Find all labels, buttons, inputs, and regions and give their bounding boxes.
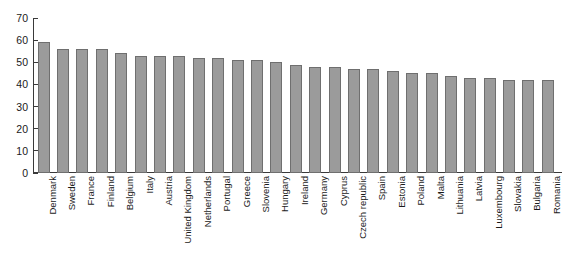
x-label-slot: Finland [92,176,111,260]
plot-area [34,18,562,173]
x-label-slot: Latvia [461,176,480,260]
bar[interactable] [290,65,302,174]
bar-slot [53,18,72,173]
bar[interactable] [426,73,438,173]
bar[interactable] [251,60,263,173]
bar[interactable] [212,58,224,173]
bar-slot [538,18,557,173]
bar-slot [247,18,266,173]
bar[interactable] [464,78,476,173]
x-label-slot: Czech republic [344,176,363,260]
bar-slot [150,18,169,173]
bar[interactable] [309,67,321,173]
x-label-slot: Italy [131,176,150,260]
y-axis-tick-label: 10 [16,145,28,157]
bar-slot [519,18,538,173]
y-axis-tick-label: 40 [16,78,28,90]
bar[interactable] [57,49,69,173]
x-axis-tick-labels: DenmarkSwedenFranceFinlandBelgiumItalyAu… [34,176,562,260]
bar-slot [441,18,460,173]
y-axis-tick-label: 0 [22,167,28,179]
x-label-slot: United Kingdom [170,176,189,260]
bar-slot [92,18,111,173]
x-axis-tick-label: Romania [552,176,562,214]
bar[interactable] [522,80,534,173]
bar-slot [286,18,305,173]
bar[interactable] [329,67,341,173]
bar[interactable] [503,80,515,173]
x-label-slot: Malta [422,176,441,260]
bar-slot [364,18,383,173]
bar-slot [131,18,150,173]
x-label-slot: Greece [228,176,247,260]
x-label-slot: France [73,176,92,260]
x-label-slot: Belgium [112,176,131,260]
bar[interactable] [270,62,282,173]
x-label-slot: Lithuania [441,176,460,260]
bar-slot [34,18,53,173]
bar-slot [209,18,228,173]
bar-slot [170,18,189,173]
x-label-slot: Spain [364,176,383,260]
bar-chart: 010203040506070 DenmarkSwedenFranceFinla… [0,0,579,262]
bar-slot [325,18,344,173]
y-axis-tick-label: 50 [16,56,28,68]
x-label-slot: Romania [538,176,557,260]
bar[interactable] [173,56,185,173]
x-label-slot: Germany [305,176,324,260]
x-label-slot: Bulgaria [519,176,538,260]
x-label-slot: Sweden [53,176,72,260]
bar[interactable] [38,42,50,173]
bar[interactable] [484,78,496,173]
x-label-slot: Slovenia [247,176,266,260]
bar-slot [461,18,480,173]
bar-slot [383,18,402,173]
x-label-slot: Ireland [286,176,305,260]
x-label-slot: Poland [402,176,421,260]
x-label-slot: Hungary [267,176,286,260]
bar-slot [422,18,441,173]
bar[interactable] [367,69,379,173]
bar-slot [189,18,208,173]
bar-slot [305,18,324,173]
bar[interactable] [76,49,88,173]
x-label-slot: Luxembourg [480,176,499,260]
x-label-slot: Slovakia [499,176,518,260]
x-label-slot: Portugal [209,176,228,260]
x-label-slot: Denmark [34,176,53,260]
bar-slot [344,18,363,173]
bar[interactable] [96,49,108,173]
bar[interactable] [406,73,418,173]
bar-slot [267,18,286,173]
x-label-slot: Netherlands [189,176,208,260]
x-label-slot: Cyprus [325,176,344,260]
bar[interactable] [387,71,399,173]
bar-slot [499,18,518,173]
bar-slot [73,18,92,173]
bar-slot [480,18,499,173]
bar[interactable] [193,58,205,173]
bar[interactable] [115,53,127,173]
bar-slot [228,18,247,173]
bar[interactable] [445,76,457,173]
bar-slot [112,18,131,173]
bar[interactable] [542,80,554,173]
y-axis-tick-label: 70 [16,12,28,24]
x-label-slot: Estonia [383,176,402,260]
bar[interactable] [348,69,360,173]
y-axis-tick-label: 60 [16,34,28,46]
bar-series [34,18,562,173]
bar-slot [402,18,421,173]
bar[interactable] [154,56,166,173]
y-axis-tick-label: 20 [16,123,28,135]
y-axis-tick-label: 30 [16,101,28,113]
x-label-slot: Austria [150,176,169,260]
bar[interactable] [135,56,147,173]
bar[interactable] [232,60,244,173]
